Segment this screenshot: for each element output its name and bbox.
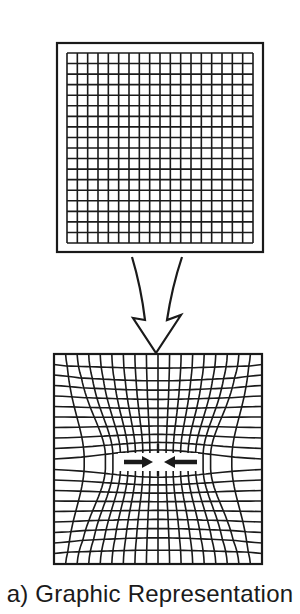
compression-arrows-icon [118,453,198,471]
figure-caption: a) Graphic Representation [0,580,300,608]
transform-arrow-icon [132,257,182,353]
diagram-figure [0,0,300,614]
undistorted-grid [57,43,263,252]
